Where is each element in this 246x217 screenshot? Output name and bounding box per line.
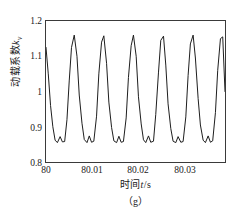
y-axis-title-text: 动载系数 — [10, 45, 21, 87]
x-tick-label-2: 80.01 — [74, 165, 110, 175]
x-tick-label-1: 80 — [30, 165, 62, 175]
x-tick-label-4: 80.03 — [167, 165, 203, 175]
data-curve-svg — [46, 21, 225, 162]
x-axis-title-unit: /s — [144, 179, 152, 190]
x-axis-title: 时间t/s — [45, 179, 226, 190]
y-axis-title: 动载系数kv — [10, 15, 25, 109]
data-series-line — [46, 35, 225, 143]
figure-caption: （g） — [45, 196, 226, 207]
plot-area — [45, 20, 226, 163]
figure-container: 1.2 1.1 1 0.9 0.8 80 80.01 80.02 80.03 动… — [0, 0, 246, 217]
x-tick-label-3: 80.02 — [120, 165, 156, 175]
y-tick-label-4: 0.9 — [0, 123, 42, 133]
x-axis-title-text: 时间 — [120, 179, 141, 190]
y-axis-title-subscript: v — [15, 36, 24, 40]
y-axis-title-symbol: k — [10, 40, 21, 45]
